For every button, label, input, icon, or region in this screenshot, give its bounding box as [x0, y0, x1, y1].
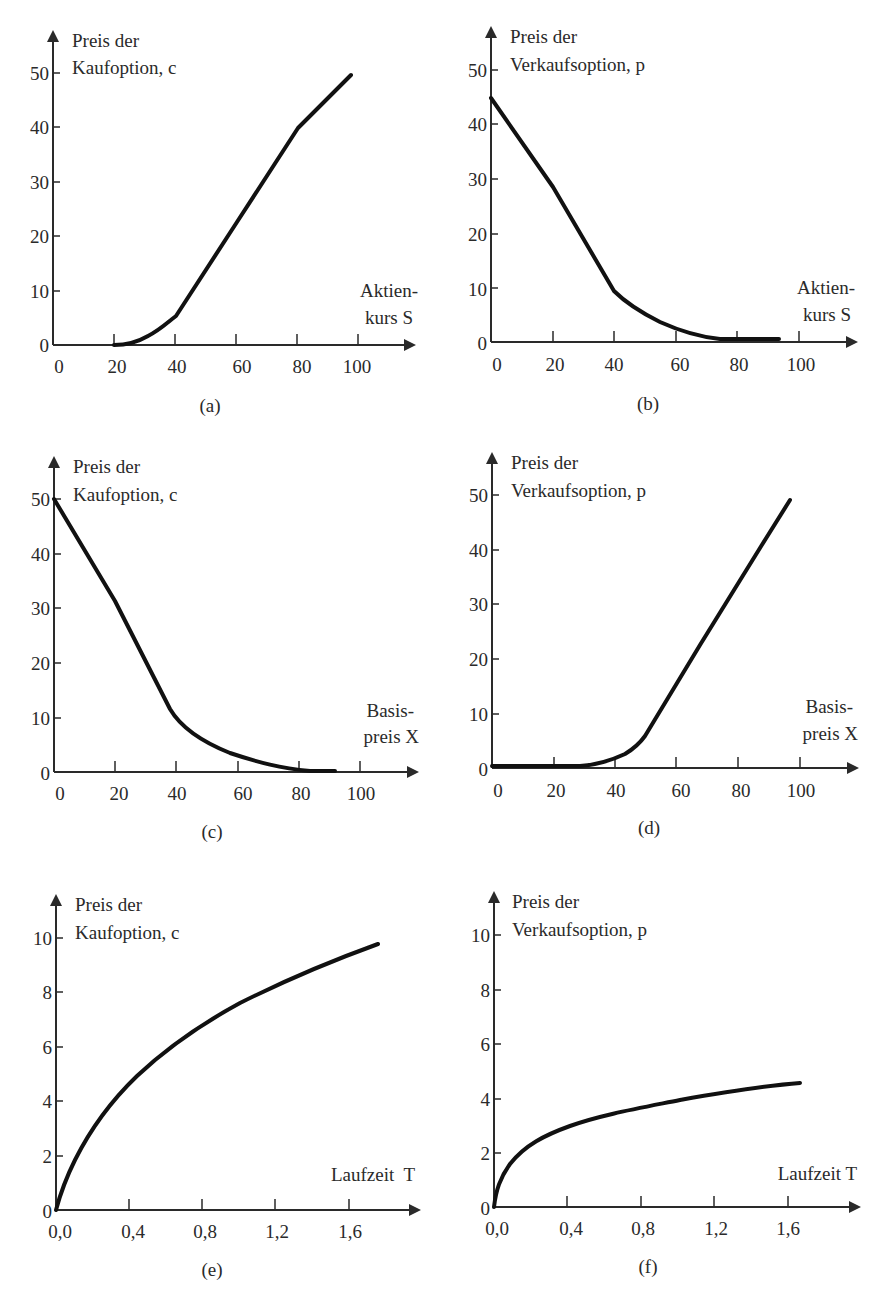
y-tick-label: 30 — [31, 598, 50, 619]
put-price-vs-strike-curve — [492, 500, 790, 766]
y-tick-label: 20 — [468, 224, 487, 245]
x-tick-label: 1,2 — [704, 1218, 728, 1239]
x-tick-label: 60 — [233, 356, 252, 377]
x-tick-label: 0 — [55, 783, 65, 804]
x-tick-label: 60 — [672, 780, 691, 801]
y-axis-label-line2: Verkaufsoption, p — [511, 480, 646, 501]
x-axis-label-line1: Basis- — [367, 700, 415, 721]
y-tick-label: 40 — [30, 117, 49, 138]
x-axis-label-line1: Basis- — [806, 696, 854, 717]
y-axis-label-line2: Kaufoption, c — [73, 484, 177, 505]
x-tick-label: 60 — [234, 783, 253, 804]
y-tick-label: 20 — [31, 653, 50, 674]
x-tick-label: 80 — [730, 354, 749, 375]
x-tick-label: 80 — [732, 780, 751, 801]
x-tick-label: 100 — [343, 356, 372, 377]
y-axis-label-line1: Preis der — [512, 891, 580, 912]
y-axis-label-line1: Preis der — [511, 452, 579, 473]
x-axis-label: Laufzeit T — [778, 1163, 858, 1184]
y-tick-label: 4 — [43, 1091, 53, 1112]
y-ticks — [494, 935, 501, 1153]
y-tick-label: 50 — [469, 485, 488, 506]
x-tick-label: 0,8 — [631, 1218, 655, 1239]
put-price-vs-stock-curve — [491, 98, 779, 339]
panel-caption: (b) — [637, 393, 659, 415]
y-tick-label: 50 — [30, 63, 49, 84]
x-tick-label: 40 — [168, 356, 187, 377]
call-price-vs-stock-curve — [114, 75, 351, 345]
y-tick-label: 8 — [481, 980, 491, 1001]
x-tick-label: 20 — [108, 356, 127, 377]
y-tick-label: 0 — [479, 759, 489, 780]
panel-caption: (d) — [638, 817, 660, 839]
y-tick-label: 10 — [31, 708, 50, 729]
x-tick-label: 0 — [492, 354, 502, 375]
y-tick-label: 2 — [481, 1143, 491, 1164]
figure-canvas: 0 10 20 30 40 50 0 20 40 60 80 100 Preis… — [0, 0, 895, 1303]
x-axis-label-line2: preis X — [803, 723, 859, 744]
y-axis-label-line2: Kaufoption, c — [75, 922, 179, 943]
y-tick-label: 6 — [481, 1034, 491, 1055]
y-tick-label: 0 — [481, 1198, 491, 1219]
panel-caption: (e) — [201, 1259, 222, 1281]
y-tick-label: 50 — [31, 489, 50, 510]
y-ticks — [53, 73, 60, 291]
x-axis-label-line2: kurs S — [803, 304, 851, 325]
x-tick-label: 20 — [110, 783, 129, 804]
x-tick-label: 20 — [546, 354, 565, 375]
x-ticks — [567, 1196, 788, 1207]
y-tick-label: 30 — [468, 169, 487, 190]
panel-caption: (f) — [639, 1256, 658, 1278]
put-price-vs-maturity-curve — [494, 1083, 800, 1207]
x-axis-label: Laufzeit T — [331, 1164, 415, 1185]
y-tick-label: 0 — [41, 763, 51, 784]
y-tick-label: 50 — [468, 60, 487, 81]
y-tick-label: 10 — [469, 704, 488, 725]
y-tick-label: 0 — [478, 333, 488, 354]
y-tick-label: 8 — [43, 982, 53, 1003]
x-tick-label: 0,4 — [121, 1221, 145, 1242]
y-tick-label: 40 — [31, 544, 50, 565]
x-tick-label: 0,0 — [48, 1221, 72, 1242]
x-tick-label: 1,2 — [265, 1221, 289, 1242]
x-tick-label: 20 — [547, 780, 566, 801]
x-tick-label: 1,6 — [776, 1218, 800, 1239]
y-tick-label: 20 — [469, 649, 488, 670]
x-tick-label: 80 — [292, 783, 311, 804]
y-tick-label: 10 — [471, 925, 490, 946]
panel-caption: (a) — [199, 395, 220, 417]
x-tick-label: 100 — [347, 783, 376, 804]
y-tick-label: 4 — [481, 1089, 491, 1110]
x-tick-label: 0,0 — [485, 1218, 509, 1239]
x-tick-label: 100 — [787, 354, 816, 375]
y-axis-label-line2: Kaufoption, c — [72, 57, 176, 78]
y-axis-label-line1: Preis der — [73, 456, 141, 477]
x-tick-label: 40 — [605, 354, 624, 375]
y-tick-label: 10 — [33, 928, 52, 949]
y-tick-label: 2 — [43, 1146, 53, 1167]
x-tick-label: 0,8 — [193, 1221, 217, 1242]
y-tick-label: 20 — [30, 226, 49, 247]
y-tick-label: 6 — [43, 1037, 53, 1058]
y-tick-label: 30 — [469, 594, 488, 615]
y-axis-label-line1: Preis der — [75, 894, 143, 915]
x-tick-label: 60 — [671, 354, 690, 375]
panel-f: 0 2 4 6 8 10 0,0 0,4 0,8 1,2 1,6 Preis d… — [471, 891, 857, 1278]
x-axis-label-line1: Aktien- — [797, 277, 855, 298]
x-axis-label-line2: preis X — [364, 726, 420, 747]
panel-b: 0 10 20 30 40 50 0 20 40 60 80 100 Preis… — [468, 26, 855, 415]
x-tick-label: 1,6 — [338, 1221, 362, 1242]
y-axis-label-line1: Preis der — [72, 30, 140, 51]
y-ticks — [54, 499, 61, 718]
x-axis-label-line2: kurs S — [365, 307, 413, 328]
x-tick-label: 40 — [168, 783, 187, 804]
y-axis-label-line2: Verkaufsoption, p — [510, 54, 645, 75]
panel-c: 0 10 20 30 40 50 0 20 40 60 80 100 Preis… — [31, 456, 419, 843]
y-ticks — [492, 495, 499, 714]
panel-e: 0 2 4 6 8 10 0,0 0,4 0,8 1,2 1,6 Preis d… — [33, 894, 415, 1281]
x-ticks — [129, 1199, 349, 1210]
y-tick-label: 0 — [43, 1201, 53, 1222]
y-axis-label-line1: Preis der — [510, 26, 578, 47]
y-tick-label: 30 — [30, 172, 49, 193]
y-tick-label: 40 — [469, 540, 488, 561]
